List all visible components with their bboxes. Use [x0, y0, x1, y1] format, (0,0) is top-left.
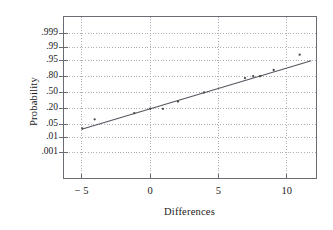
data-point-6 — [203, 91, 205, 93]
data-point-2 — [133, 112, 135, 114]
data-point-1 — [94, 118, 96, 120]
x-tick-label-5: 5 — [196, 185, 240, 196]
x-tick-label-neg5: − 5 — [60, 185, 104, 196]
data-point-4 — [162, 108, 164, 110]
data-point-0 — [81, 127, 83, 129]
data-point-9 — [259, 75, 261, 77]
data-point-11 — [299, 54, 301, 56]
data-point-3 — [149, 108, 151, 110]
reference-line-group — [82, 61, 312, 130]
data-point-5 — [177, 100, 179, 102]
probability-plot-figure: .001.01.05.20.50.80.95.99.999 − 50510 Pr… — [0, 0, 333, 230]
x-tick-label-10: 10 — [265, 185, 309, 196]
x-axis-title: Differences — [63, 206, 316, 217]
y-tick-label-p999: .999 — [14, 27, 58, 37]
data-points-group — [81, 54, 301, 130]
axis-ticks-group — [59, 33, 287, 179]
data-point-10 — [273, 69, 275, 71]
reference-line — [82, 61, 312, 130]
y-axis-title: Probability — [28, 47, 39, 157]
data-point-8 — [252, 75, 254, 77]
x-tick-label-0: 0 — [128, 185, 172, 196]
data-point-7 — [244, 77, 246, 79]
